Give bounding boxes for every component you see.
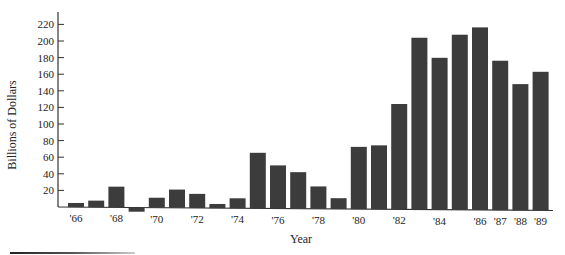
y-axis-label: Billions of Dollars [2,60,22,190]
y-tick-label: 40 [43,168,55,180]
bar-y80 [351,147,367,209]
x-tick-label: '74 [231,213,244,225]
y-tick-label: 200 [38,35,55,47]
bar-chart: 20406080100120140160180200220'66'68'70'7… [0,0,565,255]
x-tick-label: '70 [150,213,163,225]
bar-y76 [270,165,286,208]
y-tick-label: 80 [43,135,55,147]
bar-y84 [432,58,448,210]
bar-y89 [533,72,549,211]
bar-y73 [209,204,225,208]
bar-y86 [472,27,488,210]
bar-y78 [310,186,326,208]
x-tick-label: '88 [514,215,527,227]
bar-y79 [331,198,347,209]
y-axis-label-text: Billions of Dollars [5,80,20,169]
chart-plot-area: 20406080100120140160180200220'66'68'70'7… [0,0,565,255]
x-tick-label: '68 [110,212,123,224]
bar-y82 [391,104,407,209]
x-tick-label: '72 [191,213,204,225]
bar-y77 [290,172,306,209]
bar-y81 [371,145,387,209]
bar-y71 [169,190,185,208]
x-tick-label: '76 [272,214,285,226]
y-tick-label: 140 [38,85,55,97]
bar-y66 [68,203,84,207]
y-tick-label: 160 [38,68,55,80]
bar-y68 [108,187,124,208]
x-tick-label: '78 [312,214,325,226]
bar-y69 [129,208,145,212]
y-tick-label: 60 [43,151,55,163]
bar-y67 [88,201,104,208]
x-tick-label: '82 [393,214,406,226]
bar-y85 [452,35,468,210]
x-tick-label: '89 [534,215,547,227]
bar-y75 [250,153,266,209]
y-tick-label: 120 [38,101,55,113]
x-tick-label: '86 [474,215,487,227]
bar-y70 [149,198,165,208]
y-tick-label: 20 [43,184,55,196]
footer-rule [10,252,135,254]
y-tick-label: 100 [38,118,55,130]
x-tick-label: '84 [433,215,446,227]
bar-y72 [189,194,205,208]
x-tick-label: '87 [494,215,507,227]
bar-y74 [230,198,246,208]
bar-y87 [492,61,508,210]
x-axis-label: Year [290,232,312,247]
y-tick-label: 220 [38,18,55,30]
y-tick-label: 180 [38,52,55,64]
x-tick-label: '66 [70,212,83,224]
bar-y83 [411,38,427,210]
bar-y88 [512,84,528,210]
x-tick-label: '80 [352,214,365,226]
